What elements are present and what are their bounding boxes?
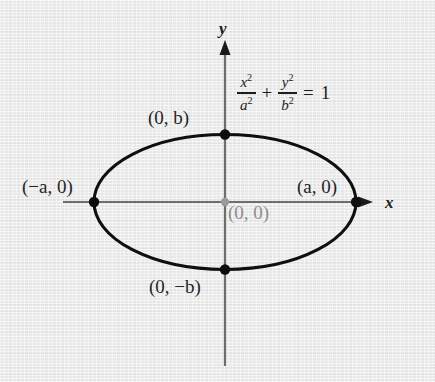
label-origin: (0, 0)	[228, 203, 269, 222]
x-axis-label: x	[385, 194, 394, 211]
equation-term-1-fraction-bar	[237, 92, 256, 93]
equation-term-2-numerator-exponent: 2	[288, 72, 293, 83]
y-axis-label: y	[219, 20, 227, 37]
y-axis-arrowhead	[220, 40, 231, 55]
equation-term-2-denominator-exponent: 2	[289, 95, 294, 106]
ellipse-equation: x2 a2 + y2 b2 = 1	[236, 72, 330, 114]
equation-term-1-denominator: a2	[237, 95, 256, 114]
equation-plus-operator: +	[262, 83, 273, 102]
equation-term-2: y2 b2	[278, 72, 297, 114]
ellipse-figure: y x (0, b) (0, −b) (−a, 0) (a, 0) (0, 0)…	[0, 0, 435, 382]
equation-term-1-numerator-exponent: 2	[247, 72, 252, 83]
equation-equals-sign: =	[303, 83, 314, 102]
label-top-vertex: (0, b)	[148, 108, 189, 127]
equation-term-2-denominator: b2	[278, 95, 297, 114]
equation-right-side: 1	[321, 83, 331, 102]
point-right-vertex	[351, 197, 361, 207]
equation-term-1-numerator: x2	[237, 72, 255, 91]
equation-term-2-denominator-base: b	[281, 97, 289, 113]
label-bottom-vertex: (0, −b)	[149, 277, 201, 296]
equation-term-2-numerator: y2	[279, 72, 297, 91]
point-top-vertex	[220, 129, 230, 139]
label-left-vertex: (−a, 0)	[22, 177, 73, 196]
label-right-vertex: (a, 0)	[297, 177, 337, 196]
equation-term-1: x2 a2	[237, 72, 256, 114]
point-left-vertex	[89, 197, 99, 207]
point-bottom-vertex	[220, 264, 230, 274]
equation-term-2-fraction-bar	[278, 92, 297, 93]
equation-term-1-denominator-base: a	[240, 97, 248, 113]
equation-term-1-denominator-exponent: 2	[248, 95, 253, 106]
